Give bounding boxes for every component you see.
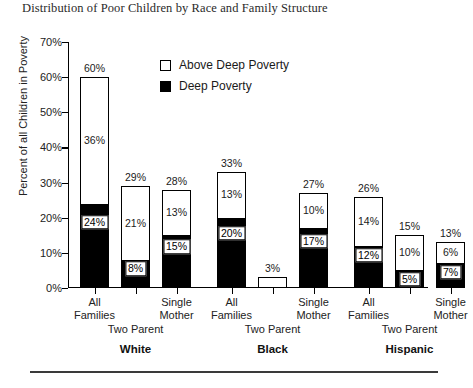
y-axis-tick xyxy=(62,112,68,113)
segment-label-above-deep-poverty: 21% xyxy=(125,218,146,229)
bar-total-label: 60% xyxy=(84,62,105,74)
segment-label-above-deep-poverty: 10% xyxy=(303,205,324,216)
x-group-label-white: White xyxy=(66,343,206,355)
x-axis-tick xyxy=(314,288,315,294)
x-label-white-two-parent: Two Parent xyxy=(76,323,196,335)
y-axis-tick xyxy=(62,77,68,78)
y-axis-tick-label: 10% xyxy=(24,247,62,259)
chart-legend: Above Deep PovertyDeep Poverty xyxy=(160,58,289,100)
bar-total-label: 15% xyxy=(399,220,420,232)
legend-label: Above Deep Poverty xyxy=(179,58,289,72)
x-axis-tick xyxy=(177,288,178,294)
segment-label-above-deep-poverty: 13% xyxy=(166,207,187,218)
x-axis-tick xyxy=(136,288,137,294)
segment-label-deep-poverty: 15% xyxy=(163,240,190,255)
legend-item[interactable]: Deep Poverty xyxy=(160,79,289,93)
y-axis-tick xyxy=(62,218,68,219)
bar-total-label: 33% xyxy=(221,157,242,169)
segment-label-deep-poverty: 5% xyxy=(399,272,420,287)
bar-white-all-families[interactable]: 60%36%24% xyxy=(80,77,109,288)
segment-label-deep-poverty: 12% xyxy=(355,248,382,263)
y-axis-tick xyxy=(62,288,68,289)
y-axis-tick-label: 60% xyxy=(24,71,62,83)
y-axis-tick xyxy=(62,42,68,43)
y-axis-tick-label: 70% xyxy=(24,36,62,48)
x-axis-tick xyxy=(95,288,96,294)
bar-total-label: 27% xyxy=(303,178,324,190)
bar-total-label: 13% xyxy=(440,227,461,239)
bar-white-single-mother[interactable]: 28%13%15% xyxy=(162,190,191,288)
legend-swatch-above-deep-poverty-icon xyxy=(160,60,171,71)
x-axis-tick xyxy=(410,288,411,294)
segment-label-deep-poverty: 17% xyxy=(300,234,327,249)
bar-hispanic-single-mother[interactable]: 13%6%7% xyxy=(436,242,465,288)
y-axis-title: Percent of all Children in Poverty xyxy=(17,0,29,236)
y-axis-tick-label: 20% xyxy=(24,212,62,224)
segment-label-above-deep-poverty: 10% xyxy=(399,248,420,259)
x-label-black-all-families: AllFamilies xyxy=(197,296,267,321)
x-label-hispanic-single-mother: SingleMother xyxy=(416,296,473,321)
x-label-black-two-parent: Two Parent xyxy=(213,323,333,335)
bar-total-label: 26% xyxy=(358,182,379,194)
bar-black-single-mother[interactable]: 27%10%17% xyxy=(299,193,328,288)
segment-label-deep-poverty: 20% xyxy=(218,226,245,241)
segment-label-above-deep-poverty: 14% xyxy=(358,216,379,227)
bar-hispanic-all-families[interactable]: 26%14%12% xyxy=(354,197,383,288)
bar-total-label: 29% xyxy=(125,171,146,183)
chart-title: Distribution of Poor Children by Race an… xyxy=(22,1,328,16)
legend-swatch-deep-poverty-icon xyxy=(160,81,171,92)
legend-item[interactable]: Above Deep Poverty xyxy=(160,58,289,72)
x-label-white-all-families: AllFamilies xyxy=(60,296,130,321)
bar-black-all-families[interactable]: 33%13%20% xyxy=(217,172,246,288)
x-label-hispanic-two-parent: Two Parent xyxy=(350,323,470,335)
bar-total-label: 3% xyxy=(265,262,280,274)
x-group-label-hispanic: Hispanic xyxy=(340,343,473,355)
y-axis-tick xyxy=(62,147,68,148)
bar-total-label: 28% xyxy=(166,175,187,187)
x-axis-tick xyxy=(232,288,233,294)
y-axis-tick xyxy=(62,183,68,184)
bar-black-two-parent[interactable]: 3% xyxy=(258,277,287,288)
y-axis-tick-label: 50% xyxy=(24,106,62,118)
y-axis-tick-label: 40% xyxy=(24,141,62,153)
segment-label-deep-poverty: 7% xyxy=(440,265,461,280)
y-axis-tick xyxy=(62,253,68,254)
y-axis-tick-label: 0% xyxy=(24,282,62,294)
x-axis-tick xyxy=(369,288,370,294)
x-group-label-black: Black xyxy=(203,343,343,355)
y-axis-line xyxy=(68,42,69,288)
bar-white-two-parent[interactable]: 29%21%8% xyxy=(121,186,150,288)
bottom-divider xyxy=(30,371,438,373)
segment-label-above-deep-poverty: 6% xyxy=(443,248,458,259)
segment-label-above-deep-poverty: 36% xyxy=(84,135,105,146)
segment-above-deep-poverty[interactable] xyxy=(258,277,287,288)
segment-label-above-deep-poverty: 13% xyxy=(221,190,242,201)
x-axis-tick xyxy=(273,288,274,294)
bar-hispanic-two-parent[interactable]: 15%10%5% xyxy=(395,235,424,288)
segment-label-deep-poverty: 8% xyxy=(125,262,146,277)
y-axis-tick-label: 30% xyxy=(24,177,62,189)
legend-label: Deep Poverty xyxy=(179,79,252,93)
x-label-hispanic-all-families: AllFamilies xyxy=(334,296,404,321)
x-axis-tick xyxy=(451,288,452,294)
segment-label-deep-poverty: 24% xyxy=(81,215,108,230)
